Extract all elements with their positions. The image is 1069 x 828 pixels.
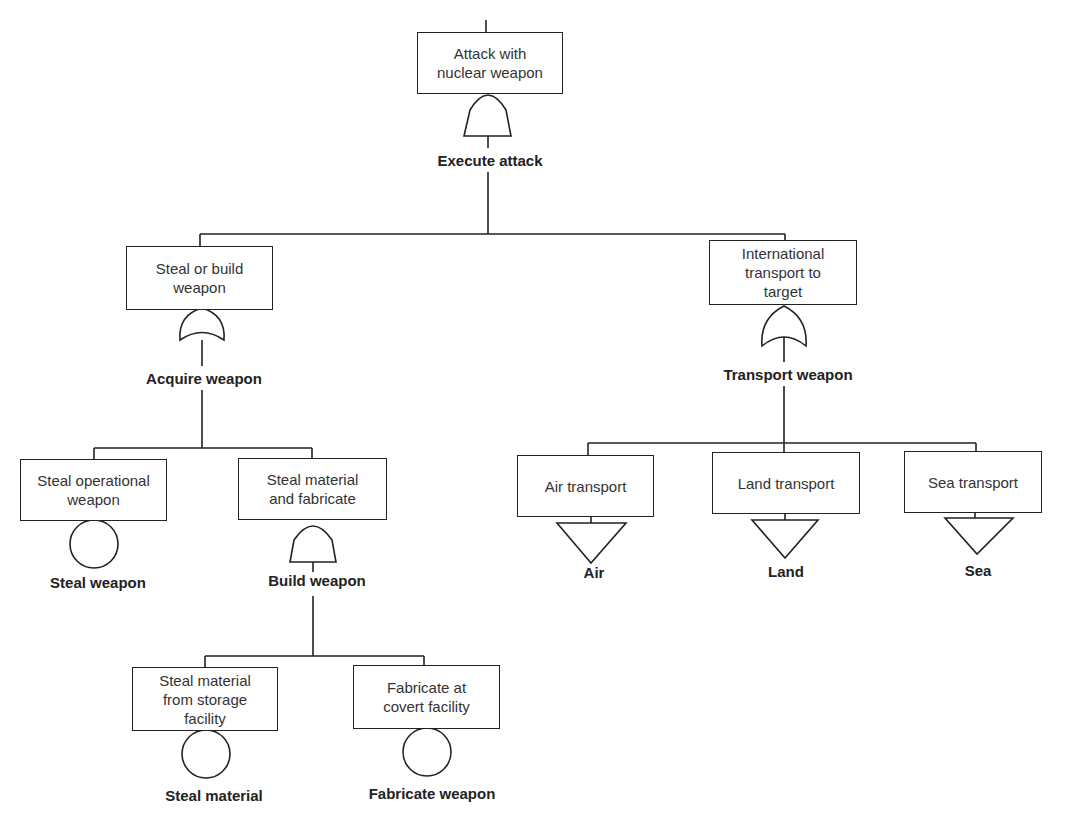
and-gate-icon	[290, 526, 336, 562]
basic-event-icon	[70, 520, 118, 568]
gate-label-execute-attack: Execute attack	[435, 152, 544, 169]
basic-event-icon	[182, 730, 230, 778]
node-air-transport: Air transport	[517, 455, 654, 517]
gate-label-fabricate-weapon: Fabricate weapon	[367, 785, 498, 802]
node-steal-or-build-weapon: Steal or build weapon	[126, 246, 273, 310]
basic-event-icon	[403, 728, 451, 776]
gate-label-build-weapon: Build weapon	[266, 572, 368, 589]
transfer-triangle-icon	[752, 520, 818, 558]
transfer-triangle-icon	[557, 523, 626, 563]
node-international-transport-to-target: International transport to target	[709, 240, 857, 305]
node-sea-transport: Sea transport	[904, 451, 1042, 513]
node-attack-with-nuclear-weapon: Attack with nuclear weapon	[417, 32, 563, 94]
fault-tree-diagram: Attack with nuclear weapon Execute attac…	[0, 0, 1069, 828]
node-steal-operational-weapon: Steal operational weapon	[20, 459, 167, 521]
transfer-triangle-icon	[945, 518, 1013, 554]
gate-label-air: Air	[582, 564, 607, 581]
node-fabricate-at-covert-facility: Fabricate at covert facility	[353, 665, 500, 729]
node-steal-material-and-fabricate: Steal material and fabricate	[238, 458, 387, 520]
node-land-transport: Land transport	[712, 452, 860, 514]
gate-label-sea: Sea	[963, 562, 994, 579]
gate-label-transport-weapon: Transport weapon	[721, 366, 854, 383]
gate-label-acquire-weapon: Acquire weapon	[144, 370, 264, 387]
gate-label-steal-material: Steal material	[163, 787, 265, 804]
or-gate-icon	[180, 308, 224, 340]
node-steal-material-from-storage-facility: Steal material from storage facility	[132, 667, 278, 731]
gate-label-steal-weapon: Steal weapon	[48, 574, 148, 591]
gate-label-land: Land	[766, 563, 806, 580]
and-gate-icon	[464, 95, 511, 136]
